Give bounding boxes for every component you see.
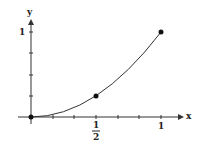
x-tick-label-1: 1 [158,122,164,131]
x-tick-label-half-numerator: 1 [93,121,99,130]
y-axis-arrow-icon [28,19,34,25]
curve [31,32,161,117]
point-origin [29,115,34,120]
x-axis-arrow-icon [178,114,184,120]
x-tick-label-half-denominator: 2 [93,133,99,142]
y-tick-label-1: 1 [19,28,25,37]
point-half [94,94,99,99]
y-axis-label: y [27,8,32,17]
point-one [159,30,164,35]
x-axis-label: x [186,112,191,121]
